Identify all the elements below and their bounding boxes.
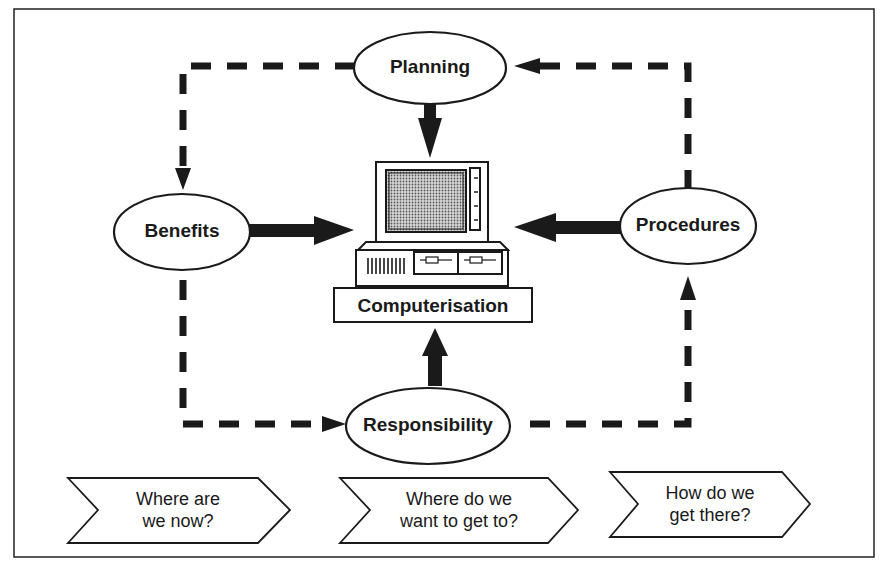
step-2-line-2: want to get to? xyxy=(370,510,548,532)
node-benefits-label: Benefits xyxy=(114,220,250,242)
step-3-line-1: How do we xyxy=(638,482,782,504)
node-planning-label: Planning xyxy=(354,56,506,78)
computerisation-label: Computerisation xyxy=(334,295,532,317)
arrow-benefits-to-computer xyxy=(248,216,354,245)
arrowhead-to-responsibility xyxy=(322,416,346,432)
arrow-procedures-to-computer xyxy=(514,213,622,242)
step-3-line-2: get there? xyxy=(638,504,782,526)
step-3-label: How do we get there? xyxy=(638,482,782,526)
diagram-canvas xyxy=(0,0,882,565)
arrowhead-to-procedures xyxy=(680,276,696,300)
step-1-line-2: we now? xyxy=(98,510,258,532)
arrowhead-to-benefits xyxy=(175,168,191,190)
arrow-responsibility-to-computer xyxy=(422,328,448,386)
step-1-line-1: Where are xyxy=(98,488,258,510)
computer-icon xyxy=(356,162,508,286)
step-2-line-1: Where do we xyxy=(370,488,548,510)
arrowhead-to-planning xyxy=(514,58,540,74)
node-responsibility-label: Responsibility xyxy=(346,414,510,436)
step-1-label: Where are we now? xyxy=(98,488,258,532)
node-procedures-label: Procedures xyxy=(620,214,756,236)
step-2-label: Where do we want to get to? xyxy=(370,488,548,532)
arrow-planning-to-computer xyxy=(418,100,442,158)
